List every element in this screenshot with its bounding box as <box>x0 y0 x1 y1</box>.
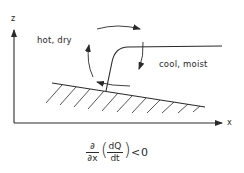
dq-dt-fraction: dQ dt <box>107 142 123 163</box>
dt: dt <box>110 154 119 163</box>
cool-moist-label: cool, moist <box>159 60 208 69</box>
x-axis-label: x <box>227 119 232 127</box>
circulation-arrows <box>88 26 143 86</box>
less-than: < <box>131 147 140 158</box>
arrow-bottom-left-icon <box>97 82 130 86</box>
dq: dQ <box>109 142 122 151</box>
close-paren: ) <box>124 142 131 159</box>
partial-x: ∂x <box>88 154 98 163</box>
terrain-hatching <box>46 85 200 113</box>
arrow-right-down-icon <box>139 42 143 69</box>
partial-derivative: ∂ ∂x <box>86 142 99 163</box>
dryline-circulation-diagram: z x hot, dry cool, moist ∂ ∂x ( dQ dt ) … <box>0 0 244 173</box>
arrow-top-icon <box>97 26 140 29</box>
sloping-terrain <box>46 83 205 113</box>
z-axis-label: z <box>11 15 15 23</box>
partial-symbol: ∂ <box>90 142 95 151</box>
equation: ∂ ∂x ( dQ dt ) < 0 <box>84 140 164 168</box>
arrow-left-up-icon <box>88 45 93 77</box>
rhs-zero: 0 <box>141 147 148 158</box>
hot-dry-label: hot, dry <box>37 36 72 45</box>
